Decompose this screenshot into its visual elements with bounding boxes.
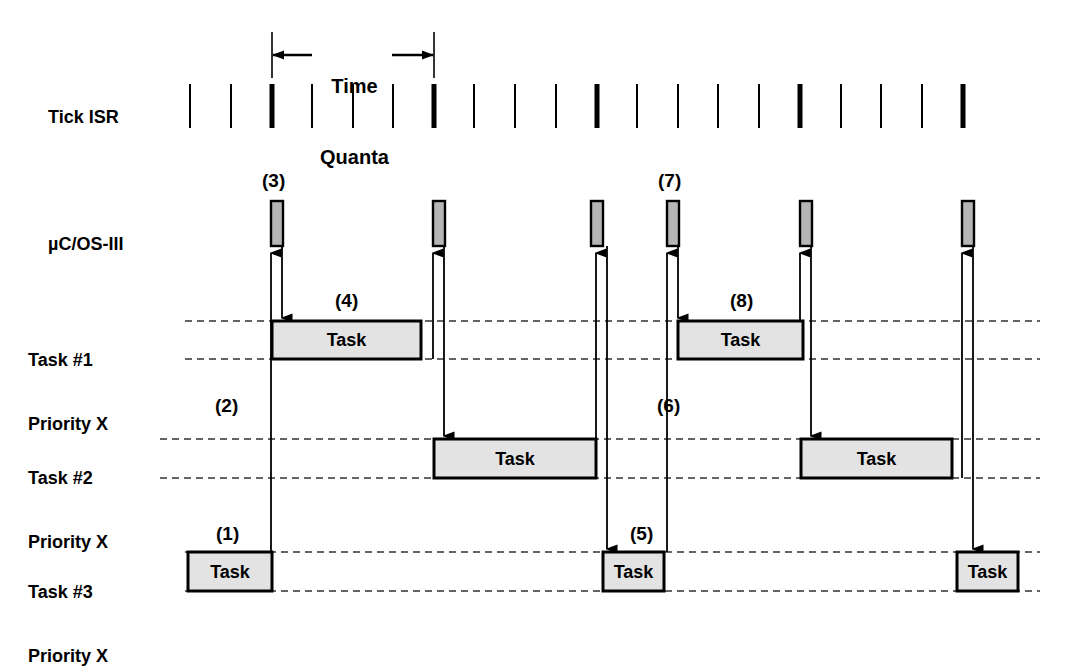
task-box-task3-1[interactable] (188, 552, 272, 591)
row-label-task3-line1: Task #3 (28, 582, 108, 603)
step-marker-4: (4) (335, 290, 358, 312)
row-label-task2-line1: Task #2 (28, 468, 108, 489)
tick-mark-12 (636, 84, 638, 128)
tick-mark-bold-11 (595, 84, 600, 128)
tick-mark-10 (555, 84, 557, 128)
task-box-task1-1[interactable] (272, 321, 421, 359)
time-quanta-label-line1: Time (292, 75, 417, 99)
tick-mark-19 (921, 84, 923, 128)
tick-mark-1 (189, 84, 191, 128)
tick-mark-bold-16 (798, 84, 803, 128)
context-switch-arrows (271, 246, 973, 552)
step-marker-6: (6) (657, 395, 680, 417)
row-label-os: µC/OS-III (28, 213, 123, 277)
tick-mark-9 (514, 84, 516, 128)
time-quanta-label-line2: Quanta (292, 146, 417, 170)
step-marker-8: (8) (730, 290, 753, 312)
os-kernel-block-1 (271, 201, 283, 246)
row-label-task1-line1: Task #1 (28, 350, 108, 371)
task-box-task1-2[interactable] (678, 321, 803, 359)
os-kernel-block-3 (591, 201, 603, 246)
tick-mark-14 (717, 84, 719, 128)
task-box-task3-3[interactable] (957, 552, 1018, 591)
step-marker-5: (5) (630, 523, 653, 545)
tick-mark-18 (880, 84, 882, 128)
tick-mark-13 (677, 84, 679, 128)
step-marker-7: (7) (658, 170, 681, 192)
tick-mark-8 (473, 84, 475, 128)
step-marker-1: (1) (216, 523, 239, 545)
task-execution-boxes (188, 321, 1018, 591)
tick-mark-bold-3 (270, 84, 275, 128)
os-kernel-block-5 (800, 201, 812, 246)
task-box-task3-2[interactable] (603, 552, 664, 591)
tick-mark-17 (840, 84, 842, 128)
task-box-task2-2[interactable] (801, 439, 952, 478)
tick-mark-2 (230, 84, 232, 128)
task-box-task2-1[interactable] (434, 439, 596, 478)
os-kernel-block-2 (433, 201, 445, 246)
tick-mark-bold-20 (961, 84, 966, 128)
tick-mark-bold-7 (432, 84, 437, 128)
time-quanta-label: Time Quanta (292, 28, 417, 217)
os-kernel-block-4 (667, 201, 679, 246)
row-label-tick-isr: Tick ISR (28, 86, 119, 150)
step-marker-3: (3) (262, 170, 285, 192)
step-marker-2: (2) (215, 395, 238, 417)
row-label-task3: Task #3 Priority X (28, 540, 108, 670)
os-kernel-block-6 (962, 201, 974, 246)
row-label-task3-line2: Priority X (28, 646, 108, 667)
tick-mark-15 (758, 84, 760, 128)
